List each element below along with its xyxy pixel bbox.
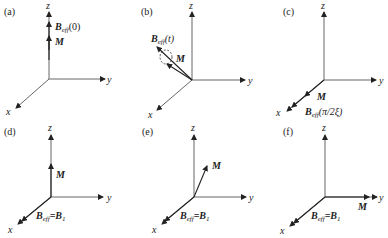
m-label: M xyxy=(316,91,327,102)
x-axis-label: x xyxy=(279,225,285,236)
x-axis-label: x xyxy=(275,107,281,118)
x-axis-label: x xyxy=(5,106,11,117)
panel-b: (b) z y x Beff(t) M xyxy=(141,0,253,120)
panel-label-f: (f) xyxy=(283,126,293,138)
m-vector xyxy=(194,166,207,197)
panel-label-c: (c) xyxy=(283,6,294,18)
y-axis-label: y xyxy=(106,74,112,85)
m-label: M xyxy=(54,36,65,47)
m-label: M xyxy=(211,160,222,171)
y-axis-label: y xyxy=(378,192,384,203)
m-vector xyxy=(167,64,192,80)
b-eff-vector xyxy=(292,96,305,107)
b-eff-label: Beff(0) xyxy=(54,21,80,34)
y-axis-label: y xyxy=(248,192,254,203)
b-eff-label: Beff(t) xyxy=(150,33,175,46)
z-axis-label: z xyxy=(188,0,193,11)
y-axis-label: y xyxy=(378,75,384,86)
z-axis-label: z xyxy=(45,0,50,11)
x-axis xyxy=(16,79,49,108)
panel-label-d: (d) xyxy=(4,126,16,138)
x-axis-label: x xyxy=(7,224,13,235)
y-axis-label: y xyxy=(247,75,253,86)
b-eff-label: Beff=B1 xyxy=(310,210,341,223)
m-label: M xyxy=(357,201,368,212)
panel-label-b: (b) xyxy=(141,6,153,18)
x-axis-label: x xyxy=(151,224,157,235)
figure-canvas: (a) z y x Beff(0) M (b) z y x Beff(t) M … xyxy=(0,0,388,238)
z-axis-label: z xyxy=(321,122,326,133)
b-eff-label: Beff=B1 xyxy=(35,210,66,223)
precession-circle xyxy=(160,50,172,64)
panel-f: (f) z y x M Beff=B1 xyxy=(279,122,384,236)
x-axis-label: x xyxy=(147,109,153,120)
z-axis-label: z xyxy=(320,0,325,11)
m-label: M xyxy=(55,169,66,180)
b-eff-label: Beff=B1 xyxy=(179,210,210,223)
panel-label-e: (e) xyxy=(142,126,153,138)
y-axis-label: y xyxy=(106,192,112,203)
panel-c: (c) z y x M Beff(π/2ξ) xyxy=(275,0,384,119)
panel-label-a: (a) xyxy=(4,6,15,18)
z-axis-label: z xyxy=(47,122,52,133)
panel-a: (a) z y x Beff(0) M xyxy=(4,0,112,117)
z-axis-label: z xyxy=(190,122,195,133)
panel-e: (e) z y x M Beff=B1 xyxy=(142,122,254,235)
x-axis xyxy=(157,80,192,110)
b-eff-label: Beff(π/2ξ) xyxy=(304,106,343,119)
panel-d: (d) z y x M Beff=B1 xyxy=(4,122,112,235)
m-label: M xyxy=(175,53,186,64)
